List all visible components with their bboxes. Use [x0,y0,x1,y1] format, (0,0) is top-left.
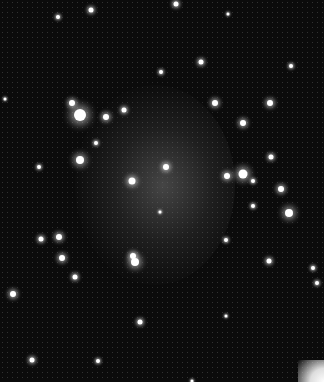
star [224,173,230,179]
star [131,258,139,266]
star [129,178,136,185]
star [163,164,169,170]
star [311,266,315,270]
star [251,204,255,208]
star [239,170,248,179]
star [56,15,60,19]
star [30,358,35,363]
star [269,155,274,160]
star [285,209,293,217]
star [56,234,62,240]
star [74,109,86,121]
star [174,2,179,7]
star [267,259,272,264]
star [278,186,284,192]
star [94,141,98,145]
star [159,70,163,74]
star [199,60,204,65]
star [69,100,75,106]
star [225,315,228,318]
star [227,13,230,16]
star [130,253,136,259]
star [315,281,319,285]
star [59,255,65,261]
star [73,275,78,280]
star [76,156,84,164]
star [96,359,100,363]
star [224,238,228,242]
star [159,211,162,214]
star [191,380,194,383]
star [289,64,293,68]
star [37,165,41,169]
star [103,114,109,120]
star [240,120,246,126]
star [89,8,94,13]
star [39,237,44,242]
star [122,108,127,113]
star [267,100,273,106]
star [138,320,143,325]
star-field-image [0,0,324,382]
star [10,291,16,297]
star [212,100,218,106]
star [251,179,255,183]
star [4,98,7,101]
corner-glow [298,360,324,382]
background-grain [0,0,324,382]
